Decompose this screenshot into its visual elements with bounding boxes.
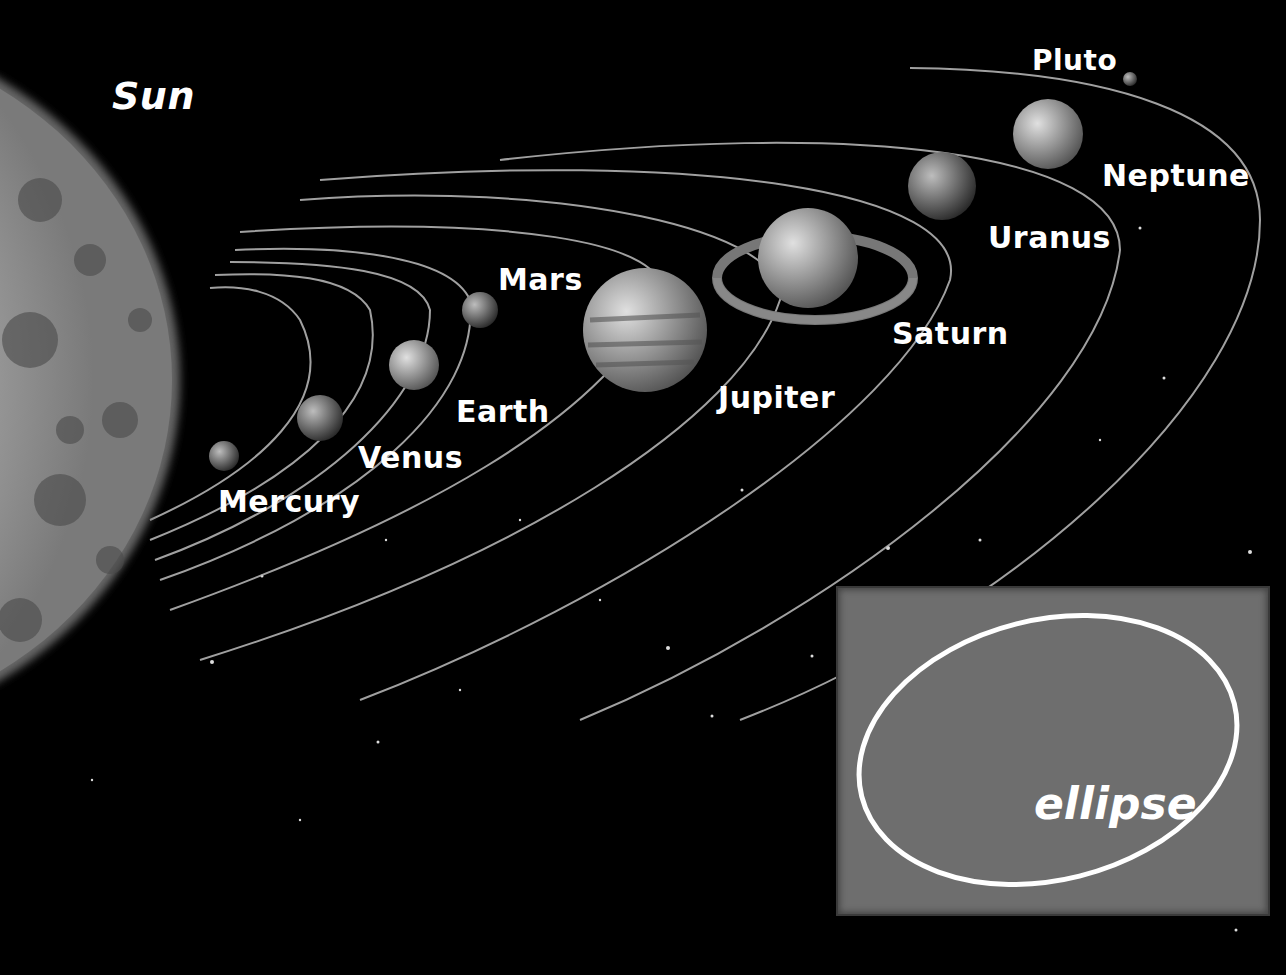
ellipse-inset-panel: [836, 586, 1270, 916]
saturn-label: Saturn: [892, 316, 1009, 351]
planet-jupiter: [583, 268, 707, 392]
planet-venus: [297, 395, 343, 441]
planet-uranus: [908, 152, 976, 220]
jupiter-label: Jupiter: [718, 380, 835, 415]
planet-saturn: [717, 208, 913, 320]
pluto-label: Pluto: [1032, 44, 1117, 77]
earth-label: Earth: [456, 394, 550, 429]
neptune-label: Neptune: [1102, 158, 1250, 193]
ellipse-shape: [838, 588, 1268, 914]
venus-label: Venus: [358, 440, 463, 475]
mercury-label: Mercury: [218, 484, 360, 519]
planet-earth: [389, 340, 439, 390]
uranus-label: Uranus: [988, 220, 1111, 255]
planet-neptune: [1013, 99, 1083, 169]
planet-pluto: [1123, 72, 1137, 86]
sun: [0, 20, 180, 740]
mars-label: Mars: [498, 262, 583, 297]
ellipse-label: ellipse: [1034, 778, 1197, 829]
planet-mercury: [209, 441, 239, 471]
sun-label: Sun: [112, 74, 195, 118]
planet-mars: [462, 292, 498, 328]
